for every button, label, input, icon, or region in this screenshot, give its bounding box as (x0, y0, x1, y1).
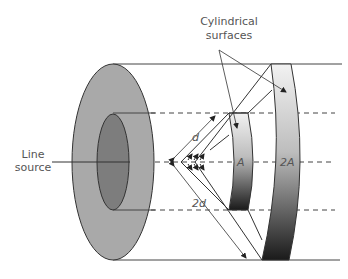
area-2a-label: 2A (280, 156, 295, 169)
cylindrical-surfaces-label-1: Cylindrical (200, 15, 258, 28)
area-a-label: A (236, 156, 245, 169)
distance-2d-label: 2d (192, 197, 207, 210)
line-source-label-2: source (15, 161, 52, 174)
cylindrical-surfaces-label-2: surfaces (206, 29, 253, 42)
line-source-label-1: Line (22, 148, 45, 161)
line-source-diagram: Cylindrical surfaces Line source d 2d A … (0, 0, 348, 279)
distance-d-label: d (192, 131, 200, 144)
